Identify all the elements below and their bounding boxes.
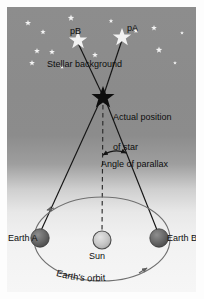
diagram-panel: Earth's orbit pB pA Stellar background A…	[7, 7, 196, 292]
label-earth-b: Earth B	[167, 233, 196, 243]
label-sun: Sun	[89, 251, 105, 261]
label-earth-a: Earth A	[8, 233, 38, 243]
background-star	[180, 31, 184, 35]
parallax-line-to-earth-a	[39, 99, 101, 235]
background-star	[40, 29, 45, 34]
background-star	[173, 61, 177, 65]
background-star	[156, 47, 162, 53]
background-star	[25, 20, 31, 26]
background-star	[92, 52, 98, 57]
sun-sphere	[93, 231, 111, 249]
earths-orbit-label: Earth's orbit	[55, 267, 106, 283]
label-angle-of-parallax: Angle of parallax	[101, 159, 168, 169]
background-star	[151, 25, 157, 30]
label-pA: pA	[127, 23, 138, 33]
background-star	[49, 49, 55, 54]
parallax-diagram-image: Earth's orbit pB pA Stellar background A…	[0, 0, 204, 299]
background-star	[34, 48, 40, 53]
label-actual-position-line2: of star	[113, 142, 172, 152]
background-star	[68, 15, 74, 21]
label-pB: pB	[70, 26, 81, 36]
label-actual-position-line1: Actual position	[113, 112, 172, 122]
background-star	[29, 60, 35, 65]
label-stellar-background: Stellar background	[47, 59, 122, 69]
background-star	[109, 19, 114, 23]
actual-star-marker	[92, 86, 115, 108]
earth-b-sphere	[150, 229, 168, 247]
